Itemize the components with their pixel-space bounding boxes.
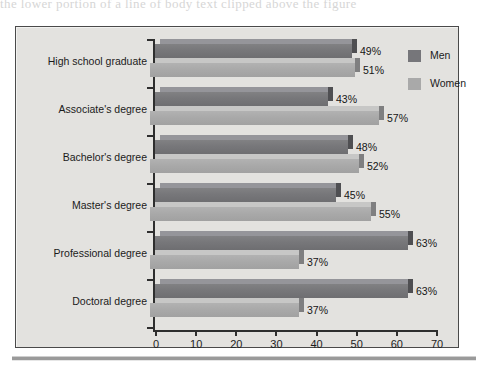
x-tick-30 xyxy=(275,330,277,336)
x-tick-label-70: 70 xyxy=(431,338,443,350)
bar-women-4[interactable] xyxy=(150,207,371,221)
bar-top-face xyxy=(155,298,304,303)
x-tick-label-60: 60 xyxy=(391,338,403,350)
y-tick-3 xyxy=(147,183,154,185)
legend-swatch-men xyxy=(408,50,421,62)
bar-top-face xyxy=(160,135,353,140)
category-label-2: Associate's degree xyxy=(59,103,147,115)
x-tick-0 xyxy=(155,330,157,336)
y-tick-6 xyxy=(147,327,154,329)
bar-women-1[interactable] xyxy=(150,63,355,77)
x-tick-50 xyxy=(356,330,358,336)
x-tick-label-10: 10 xyxy=(190,338,202,350)
bar-value-label-women-4: 55% xyxy=(379,208,400,220)
bar-side-face xyxy=(379,106,384,120)
legend-swatch-face xyxy=(408,78,421,90)
category-label-5: Professional degree xyxy=(54,247,147,259)
legend-label-women: Women xyxy=(430,77,466,89)
bar-value-label-women-5: 37% xyxy=(307,256,328,268)
bar-front-face xyxy=(150,159,359,173)
bar-side-face xyxy=(371,202,376,216)
y-tick-4 xyxy=(147,231,154,233)
bar-value-label-men-3: 48% xyxy=(356,141,377,153)
bar-men-6[interactable] xyxy=(155,284,408,298)
bar-front-face xyxy=(155,44,352,58)
bar-side-face xyxy=(299,250,304,264)
y-tick-0 xyxy=(147,39,154,41)
legend-swatch-women xyxy=(408,78,421,90)
bar-value-label-men-4: 45% xyxy=(344,189,365,201)
bar-front-face xyxy=(150,303,299,317)
bar-men-2[interactable] xyxy=(155,92,328,106)
bar-front-face xyxy=(150,111,379,125)
bar-front-face xyxy=(155,92,328,106)
bar-top-face xyxy=(160,39,357,44)
bar-women-5[interactable] xyxy=(150,255,299,269)
bar-front-face xyxy=(150,63,355,77)
y-tick-1 xyxy=(147,87,154,89)
bar-front-face xyxy=(155,236,408,250)
bar-top-face xyxy=(160,279,413,284)
bar-side-face xyxy=(355,58,360,72)
category-label-3: Bachelor's degree xyxy=(63,151,147,163)
bar-front-face xyxy=(150,207,371,221)
category-label-1: High school graduate xyxy=(48,55,147,67)
bar-value-label-women-3: 52% xyxy=(367,160,388,172)
horizontal-rule xyxy=(12,356,476,361)
bar-value-label-men-6: 63% xyxy=(416,285,437,297)
bar-side-face xyxy=(352,39,357,53)
bar-top-face xyxy=(155,154,364,159)
bar-front-face xyxy=(155,188,336,202)
bar-side-face xyxy=(328,87,333,101)
x-tick-label-0: 0 xyxy=(153,338,159,350)
bar-men-5[interactable] xyxy=(155,236,408,250)
bar-top-face xyxy=(155,106,384,111)
x-tick-label-40: 40 xyxy=(310,338,322,350)
bar-women-2[interactable] xyxy=(150,111,379,125)
bar-value-label-men-1: 49% xyxy=(360,45,381,57)
chart-panel: 010203040506070 High school graduateAsso… xyxy=(15,26,459,348)
y-tick-2 xyxy=(147,135,154,137)
bar-women-3[interactable] xyxy=(150,159,359,173)
x-tick-70 xyxy=(436,330,438,336)
bar-top-face xyxy=(160,87,333,92)
bar-value-label-men-5: 63% xyxy=(416,237,437,249)
bar-side-face xyxy=(348,135,353,149)
x-tick-label-30: 30 xyxy=(270,338,282,350)
bar-value-label-women-1: 51% xyxy=(363,64,384,76)
category-label-6: Doctoral degree xyxy=(72,295,147,307)
bar-top-face xyxy=(155,202,376,207)
bar-top-face xyxy=(160,231,413,236)
bar-front-face xyxy=(155,140,348,154)
bar-side-face xyxy=(408,279,413,293)
bar-side-face xyxy=(359,154,364,168)
category-label-4: Master's degree xyxy=(72,199,147,211)
clipped-body-text-above-figure: the lower portion of a line of body text… xyxy=(0,0,488,14)
bar-men-4[interactable] xyxy=(155,188,336,202)
bar-top-face xyxy=(155,58,360,63)
x-tick-20 xyxy=(235,330,237,336)
bar-value-label-men-2: 43% xyxy=(336,93,357,105)
x-tick-label-50: 50 xyxy=(351,338,363,350)
bar-front-face xyxy=(155,284,408,298)
bar-women-6[interactable] xyxy=(150,303,299,317)
x-tick-40 xyxy=(316,330,318,336)
bar-side-face xyxy=(408,231,413,245)
bar-men-3[interactable] xyxy=(155,140,348,154)
bar-top-face xyxy=(160,183,341,188)
legend-label-men: Men xyxy=(430,49,450,61)
y-tick-5 xyxy=(147,279,154,281)
x-tick-10 xyxy=(195,330,197,336)
bar-top-face xyxy=(155,250,304,255)
bar-men-1[interactable] xyxy=(155,44,352,58)
bar-front-face xyxy=(150,255,299,269)
bar-side-face xyxy=(299,298,304,312)
x-tick-60 xyxy=(396,330,398,336)
legend-swatch-face xyxy=(408,50,421,62)
bar-side-face xyxy=(336,183,341,197)
plot-area: 010203040506070 High school graduateAsso… xyxy=(16,27,460,349)
bar-value-label-women-2: 57% xyxy=(387,112,408,124)
bar-value-label-women-6: 37% xyxy=(307,304,328,316)
x-tick-label-20: 20 xyxy=(230,338,242,350)
